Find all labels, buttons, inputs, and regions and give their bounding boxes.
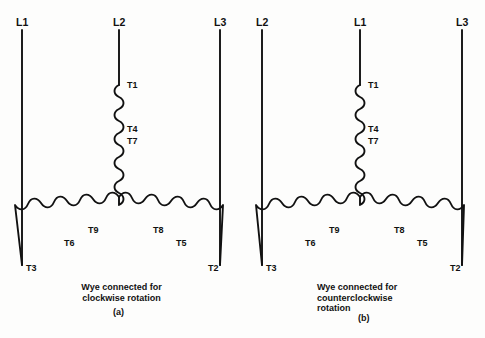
panel-a-caption-id: (a) bbox=[113, 307, 124, 317]
panel-a-terminal-t6: T6 bbox=[64, 238, 75, 248]
panel-a-caption: Wye connected for clockwise rotation bbox=[79, 282, 164, 303]
panel-b-caption-id: (b) bbox=[358, 313, 370, 323]
panel-a-label-line-left: L1 bbox=[16, 16, 28, 28]
panel-b-terminal-t7: T7 bbox=[368, 136, 379, 146]
panel-b-terminal-t8: T8 bbox=[394, 225, 405, 235]
panel-b-terminal-t2: T2 bbox=[450, 263, 461, 273]
panel-a-coil-left-arm bbox=[15, 193, 119, 265]
panel-b-terminal-t5: T5 bbox=[417, 238, 428, 248]
panel-a-terminal-t4: T4 bbox=[127, 124, 138, 134]
panel-a-label-line-center: L2 bbox=[113, 16, 125, 28]
panel-a-terminal-t3: T3 bbox=[26, 263, 37, 273]
panel-a-terminal-t1: T1 bbox=[127, 80, 138, 90]
panel-b-coil-right-arm bbox=[360, 193, 464, 265]
panel-b-terminal-t9: T9 bbox=[329, 225, 340, 235]
panel-a-terminal-t5: T5 bbox=[176, 238, 187, 248]
panel-a-terminal-t8: T8 bbox=[153, 225, 164, 235]
panel-b-terminal-t6: T6 bbox=[305, 238, 316, 248]
panel-b-label-line-right: L3 bbox=[456, 16, 468, 28]
figure-canvas: L1 L2 L3 T1 T4 T7 T9 T6 T3 T8 T5 T2 Wye … bbox=[0, 0, 485, 338]
panel-a-terminal-t2: T2 bbox=[208, 263, 219, 273]
panel-b-terminal-t3: T3 bbox=[266, 263, 277, 273]
panel-b-terminal-t4: T4 bbox=[368, 124, 379, 134]
panel-b-terminal-t1: T1 bbox=[368, 80, 379, 90]
panel-b-label-line-center: L1 bbox=[354, 16, 366, 28]
panel-b-coil-left-arm bbox=[256, 193, 360, 265]
panel-b-coil-center bbox=[356, 85, 365, 205]
panel-b-label-line-left: L2 bbox=[256, 16, 268, 28]
panel-a-coil-center bbox=[115, 85, 124, 205]
panel-a-coil-right-arm bbox=[119, 193, 223, 265]
panel-a-terminal-t7: T7 bbox=[127, 136, 138, 146]
panel-b-caption: Wye connected for counterclockwise rotat… bbox=[317, 282, 427, 314]
panel-a-label-line-right: L3 bbox=[214, 16, 226, 28]
panel-a-terminal-t9: T9 bbox=[88, 225, 99, 235]
